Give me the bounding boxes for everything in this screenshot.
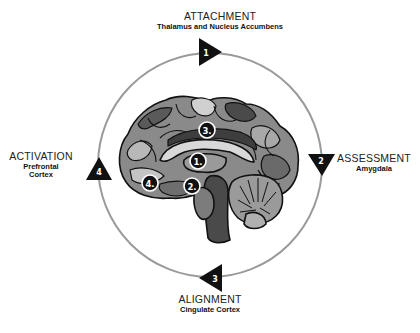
arrow-marker-4: 4 bbox=[86, 157, 112, 180]
brain-illustration bbox=[119, 96, 298, 242]
svg-text:3.: 3. bbox=[202, 126, 211, 136]
stage-title: ASSESSMENT bbox=[328, 153, 420, 165]
svg-text:3: 3 bbox=[212, 275, 218, 284]
svg-text:2.: 2. bbox=[187, 182, 196, 192]
svg-text:2: 2 bbox=[318, 157, 324, 166]
stage-title: ALIGNMENT bbox=[140, 294, 280, 306]
svg-text:4.: 4. bbox=[145, 179, 154, 189]
arrow-left-icon bbox=[199, 264, 222, 292]
stage-label-attachment: ATTACHMENT Thalamus and Nucleus Accumben… bbox=[110, 11, 330, 31]
arrow-marker-3: 3 bbox=[199, 264, 222, 292]
svg-text:4: 4 bbox=[96, 168, 102, 177]
brain-marker-4: 4. bbox=[142, 175, 158, 191]
stage-label-alignment: ALIGNMENT Cingulate Cortex bbox=[140, 294, 280, 314]
stage-label-activation: ACTIVATION Prefrontal Cortex bbox=[0, 151, 82, 179]
svg-text:1: 1 bbox=[203, 49, 209, 58]
stage-label-assessment: ASSESSMENT Amygdala bbox=[328, 153, 420, 173]
brain-marker-3: 3. bbox=[199, 122, 215, 138]
stage-title: ACTIVATION bbox=[0, 151, 82, 163]
stage-region: Amygdala bbox=[328, 165, 420, 173]
stage-region-line2: Cortex bbox=[0, 171, 82, 179]
arrow-marker-1: 1 bbox=[199, 38, 222, 66]
svg-text:1.: 1. bbox=[193, 157, 202, 167]
stage-region: Thalamus and Nucleus Accumbens bbox=[110, 23, 330, 31]
cycle-diagram: 3. 1. 2. 4. 1 2 3 4 bbox=[0, 0, 420, 333]
stage-title: ATTACHMENT bbox=[110, 11, 330, 23]
brain-marker-1: 1. bbox=[190, 153, 206, 169]
stage-region: Cingulate Cortex bbox=[140, 306, 280, 314]
brain-marker-2: 2. bbox=[184, 178, 200, 194]
